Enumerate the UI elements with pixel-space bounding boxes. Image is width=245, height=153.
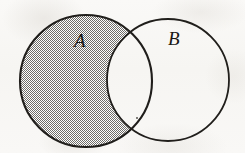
region-a-minus-b-shading (0, 0, 245, 153)
venn-diagram-figure: A B (0, 0, 245, 153)
set-a-label: A (74, 31, 86, 50)
venn-diagram-canvas (0, 0, 245, 153)
set-b-label: B (168, 29, 180, 48)
ink-speck-mark (136, 117, 138, 119)
